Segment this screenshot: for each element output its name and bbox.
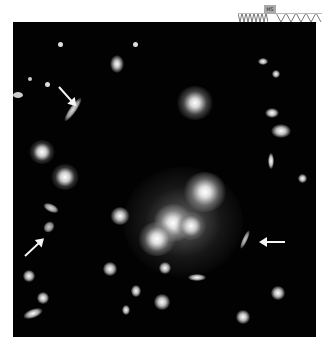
galaxy — [22, 306, 44, 321]
badge-tag: HS — [264, 5, 276, 14]
galaxy — [28, 77, 32, 81]
arrow-lower-left — [24, 239, 43, 257]
bright-galaxy — [176, 86, 214, 120]
galaxy — [131, 285, 141, 297]
galaxy — [133, 42, 138, 47]
telescope-badge: HS — [238, 0, 322, 22]
galaxy — [188, 274, 206, 281]
galaxy — [58, 42, 63, 47]
bright-galaxy — [29, 140, 55, 164]
galaxy — [258, 58, 268, 65]
arrow-top-left — [58, 86, 76, 105]
bright-galaxy — [176, 212, 206, 240]
galaxy — [23, 270, 35, 282]
galaxy — [265, 108, 279, 118]
lensed-arc-left-upper — [42, 201, 60, 215]
galaxy — [110, 55, 124, 73]
bright-galaxy — [51, 164, 79, 190]
galaxy — [271, 286, 285, 300]
galaxy-cluster-image — [13, 22, 316, 337]
galaxy — [298, 174, 307, 183]
galaxy — [110, 207, 130, 225]
lensed-arc-lower-left — [41, 219, 56, 235]
galaxy — [103, 262, 117, 276]
galaxy — [236, 310, 250, 324]
galaxy — [159, 262, 171, 274]
galaxy — [271, 124, 291, 138]
galaxy — [13, 92, 23, 98]
galaxy — [154, 294, 170, 310]
bright-galaxy — [138, 222, 176, 256]
galaxy — [268, 153, 274, 169]
bright-galaxy — [183, 172, 227, 212]
galaxy — [45, 82, 50, 87]
galaxy — [272, 70, 280, 78]
galaxy — [122, 305, 130, 315]
galaxy — [37, 292, 49, 304]
arrow-right — [261, 241, 285, 243]
